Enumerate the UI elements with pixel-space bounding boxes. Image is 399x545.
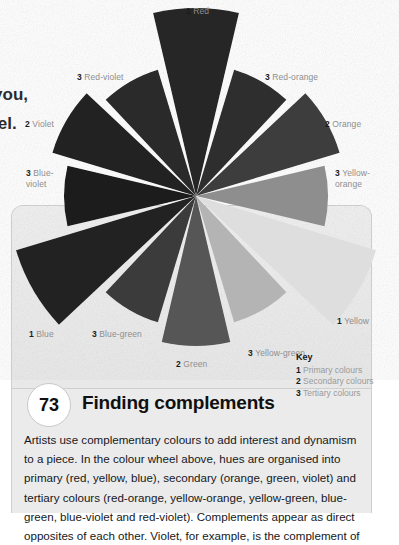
section-title: Finding complements <box>82 392 275 414</box>
wheel-label-blue-violet: 3 Blue- violet <box>26 168 54 190</box>
legend-title: Key <box>296 352 374 364</box>
wheel-label-blue-green: 3 Blue-green <box>92 329 142 340</box>
wheel-label-yellow-orange: 3 Yellow- orange <box>335 168 370 190</box>
wheel-label-blue: 1 Blue <box>29 329 54 340</box>
wheel-label-red: 1 Red <box>186 6 209 17</box>
wheel-label-red-orange: 3 Red-orange <box>265 72 318 83</box>
wheel-label-green: 2 Green <box>176 359 207 370</box>
section-number-badge: 73 <box>27 383 71 427</box>
colour-wheel <box>0 0 399 400</box>
wheel-label-orange: 2 Orange <box>325 119 361 130</box>
legend-item-tertiary: 3 Tertiary colours <box>296 388 374 400</box>
wheel-segment-group <box>16 8 376 346</box>
wheel-label-yellow: 1 Yellow <box>337 316 369 327</box>
wheel-label-red-violet: 3 Red-violet <box>77 72 124 83</box>
legend-item-primary: 1 Primary colours <box>296 365 374 377</box>
section-body-text: Artists use complementary colours to add… <box>24 430 364 545</box>
section-divider <box>11 388 372 389</box>
colour-wheel-svg <box>0 0 399 400</box>
wheel-label-violet: 2 Violet <box>25 119 54 130</box>
legend-item-secondary: 2 Secondary colours <box>296 376 374 388</box>
legend-key: Key 1 Primary colours 2 Secondary colour… <box>296 352 374 399</box>
